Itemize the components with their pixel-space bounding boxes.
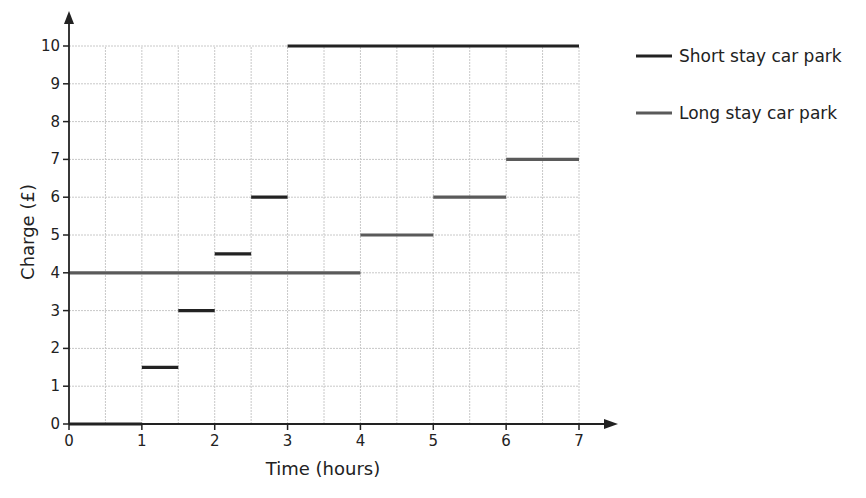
x-axis-title: Time (hours) bbox=[265, 458, 380, 479]
y-tick-label: 0 bbox=[50, 415, 60, 433]
y-tick-label: 4 bbox=[50, 264, 60, 282]
x-tick-label: 1 bbox=[137, 432, 147, 450]
y-axis-arrow-icon bbox=[64, 11, 74, 24]
x-axis-arrow-icon bbox=[604, 419, 618, 429]
y-tick-label: 10 bbox=[41, 37, 60, 55]
x-tick-label: 4 bbox=[356, 432, 366, 450]
legend-item: Short stay car park bbox=[636, 46, 842, 66]
y-tick-label: 1 bbox=[50, 377, 60, 395]
y-tick-label: 9 bbox=[50, 75, 60, 93]
y-axis-title: Charge (£) bbox=[17, 184, 38, 280]
x-tick-label: 6 bbox=[501, 432, 511, 450]
legend-item: Long stay car park bbox=[636, 103, 837, 123]
legend-label: Short stay car park bbox=[679, 46, 842, 66]
step-chart: 01234567012345678910 Time (hours) Charge… bbox=[0, 0, 866, 498]
legend-label: Long stay car park bbox=[679, 103, 837, 123]
x-tick-label: 3 bbox=[283, 432, 293, 450]
x-tick-label: 5 bbox=[429, 432, 439, 450]
y-tick-label: 2 bbox=[50, 339, 60, 357]
y-tick-label: 3 bbox=[50, 302, 60, 320]
x-tick-label: 0 bbox=[64, 432, 74, 450]
x-tick-label: 7 bbox=[574, 432, 584, 450]
legend: Short stay car parkLong stay car park bbox=[636, 46, 842, 123]
y-tick-label: 5 bbox=[50, 226, 60, 244]
x-tick-label: 2 bbox=[210, 432, 220, 450]
ticks: 01234567012345678910 bbox=[41, 37, 584, 450]
y-tick-label: 8 bbox=[50, 113, 60, 131]
y-tick-label: 7 bbox=[50, 150, 60, 168]
y-tick-label: 6 bbox=[50, 188, 60, 206]
